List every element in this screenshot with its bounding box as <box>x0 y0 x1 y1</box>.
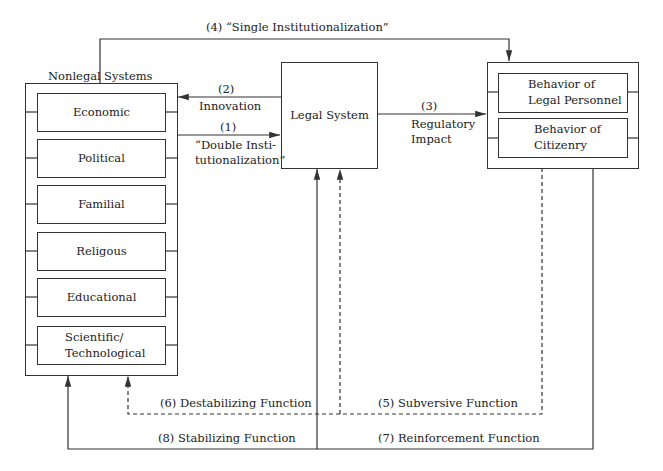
item-label: Educational <box>67 290 137 306</box>
label-8: (8) Stabilizing Function <box>158 431 296 446</box>
label-2-text: Innovation <box>199 99 261 114</box>
nonlegal-item-religous: Religous <box>37 232 166 271</box>
item-label: Economic <box>73 105 130 121</box>
nonlegal-item-educational: Educational <box>37 278 166 317</box>
label-1-text: “Double Insti- tutionalization” <box>195 138 285 168</box>
nonlegal-title-right: Systems <box>104 69 153 84</box>
item-label: Religous <box>76 244 126 260</box>
label-1-num: (1) <box>220 120 236 135</box>
label-5: (5) Subversive Function <box>378 396 518 411</box>
nonlegal-item-familial: Familial <box>37 185 166 224</box>
behavior-citizenry: Behavior of Citizenry <box>498 118 628 158</box>
item-label: Political <box>78 151 125 167</box>
label-3-text: Regulatory Impact <box>411 117 475 147</box>
item-label: Familial <box>78 197 125 213</box>
nonlegal-title-left: Nonlegal <box>48 69 101 84</box>
label-3-num: (3) <box>421 99 437 114</box>
item-label: Scientific/ Technological <box>65 330 145 361</box>
nonlegal-item-economic: Economic <box>37 93 166 132</box>
legal-system-box: Legal System <box>281 62 378 169</box>
item-label: Behavior of Legal Personnel <box>528 77 622 108</box>
behavior-legal-personnel: Behavior of Legal Personnel <box>498 73 628 113</box>
label-4: (4) “Single Institutionalization” <box>206 20 389 35</box>
nonlegal-item-scientific-technological: Scientific/ Technological <box>37 326 166 365</box>
legal-system-label: Legal System <box>290 108 369 124</box>
nonlegal-item-political: Political <box>37 139 166 178</box>
label-7: (7) Reinforcement Function <box>378 431 540 446</box>
arrow-5-subversive <box>340 168 542 414</box>
label-6: (6) Destabilizing Function <box>160 396 312 411</box>
label-2-num: (2) <box>218 82 234 97</box>
item-label: Behavior of Citizenry <box>534 122 601 153</box>
